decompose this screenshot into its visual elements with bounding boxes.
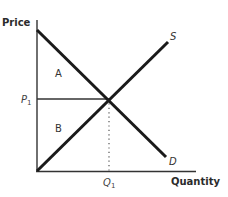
y-axis-label: Price xyxy=(2,17,31,28)
area-b-label: B xyxy=(55,123,62,134)
area-a-label: A xyxy=(55,68,62,79)
x-axis-label: Quantity xyxy=(171,176,220,187)
quantity-tick-q1: Q1 xyxy=(103,177,115,190)
price-tick-p1: P1 xyxy=(21,94,32,107)
supply-label: S xyxy=(170,31,177,42)
demand-curve xyxy=(37,30,166,157)
demand-label: D xyxy=(169,156,177,167)
supply-curve xyxy=(37,42,168,171)
supply-demand-diagram: Price Quantity S D A B P1 Q1 xyxy=(0,0,228,197)
